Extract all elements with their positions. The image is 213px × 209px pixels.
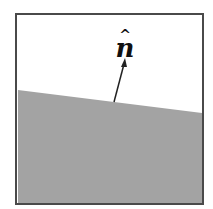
normal-vector-diagram: n ^ xyxy=(0,0,213,209)
normal-label-hat: ^ xyxy=(119,27,131,43)
